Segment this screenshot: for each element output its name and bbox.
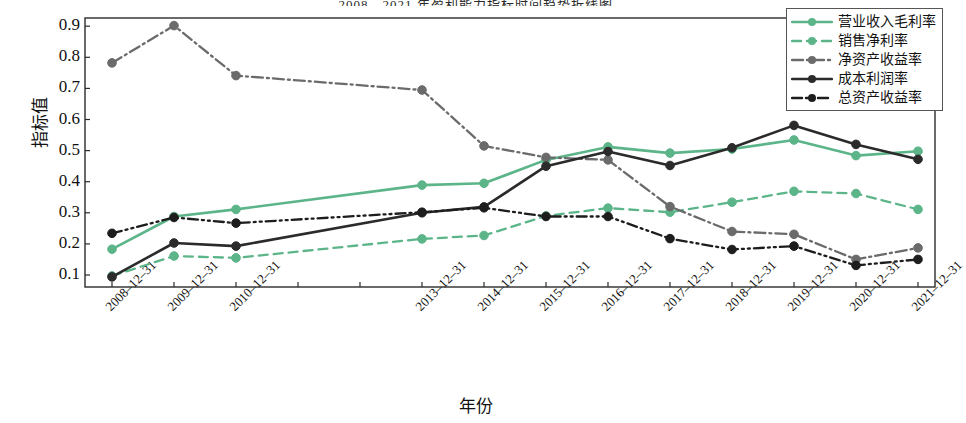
data-point <box>232 242 241 251</box>
data-point <box>852 140 861 149</box>
data-point <box>914 205 923 214</box>
data-point <box>480 231 489 240</box>
legend-line-icon <box>791 34 833 48</box>
data-point <box>728 245 737 254</box>
data-point <box>542 153 551 162</box>
series-line <box>112 125 918 277</box>
data-point <box>604 147 613 156</box>
data-point <box>418 235 427 244</box>
chart-legend: 营业收入毛利率销售净利率净资产收益率成本利润率总资产收益率 <box>786 8 943 111</box>
data-point <box>852 151 861 160</box>
data-point <box>666 202 675 211</box>
data-point <box>108 245 117 254</box>
legend-label: 总资产收益率 <box>838 91 922 105</box>
series-1 <box>108 187 923 280</box>
data-point <box>232 254 241 263</box>
data-point <box>790 242 799 251</box>
data-point <box>604 156 613 165</box>
legend-line-icon <box>791 91 833 105</box>
data-point <box>790 136 799 145</box>
data-point <box>480 204 489 213</box>
legend-item[interactable]: 净资产收益率 <box>791 50 936 69</box>
data-point <box>480 179 489 188</box>
data-point <box>666 161 675 170</box>
data-point <box>418 208 427 217</box>
data-point <box>170 21 179 30</box>
legend-line-icon <box>791 72 833 86</box>
data-point <box>542 162 551 171</box>
data-point <box>728 198 737 207</box>
data-point <box>232 219 241 228</box>
data-point <box>728 227 737 236</box>
data-point <box>170 239 179 248</box>
legend-line-icon <box>791 15 833 29</box>
data-point <box>604 212 613 221</box>
legend-label: 净资产收益率 <box>838 53 922 67</box>
legend-label: 营业收入毛利率 <box>838 15 936 29</box>
data-point <box>418 86 427 95</box>
data-point <box>790 230 799 239</box>
data-point <box>108 229 117 238</box>
legend-item[interactable]: 成本利润率 <box>791 69 936 88</box>
legend-item[interactable]: 营业收入毛利率 <box>791 12 936 31</box>
data-point <box>480 142 489 151</box>
data-point <box>914 244 923 253</box>
data-point <box>852 261 861 270</box>
data-point <box>542 212 551 221</box>
data-point <box>914 255 923 264</box>
data-point <box>604 204 613 213</box>
legend-label: 销售净利率 <box>838 34 908 48</box>
legend-item[interactable]: 销售净利率 <box>791 31 936 50</box>
data-point <box>666 234 675 243</box>
legend-label: 成本利润率 <box>838 72 908 86</box>
data-point <box>852 189 861 198</box>
data-point <box>790 121 799 130</box>
data-point <box>418 181 427 190</box>
data-point <box>170 252 179 261</box>
data-point <box>728 144 737 153</box>
data-point <box>170 213 179 222</box>
data-point <box>108 59 117 68</box>
data-point <box>232 71 241 80</box>
data-point <box>108 273 117 282</box>
data-point <box>914 147 923 156</box>
data-point <box>790 187 799 196</box>
data-point <box>232 205 241 214</box>
legend-line-icon <box>791 53 833 67</box>
data-point <box>914 155 923 164</box>
data-point <box>666 149 675 158</box>
legend-item[interactable]: 总资产收益率 <box>791 88 936 107</box>
